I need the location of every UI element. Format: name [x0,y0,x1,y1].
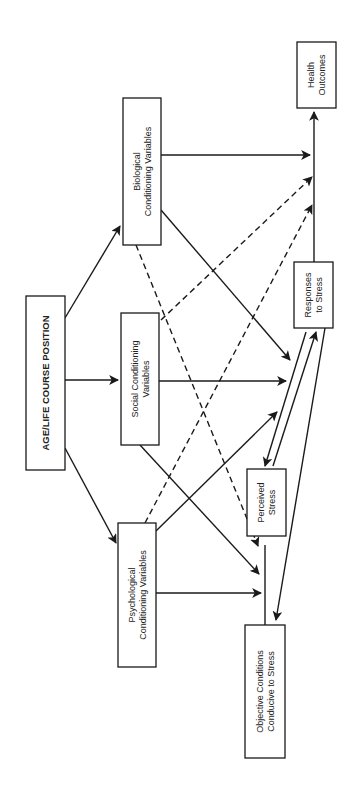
node-social: Social ConditioningVariables [121,313,159,445]
node-label: Conducive to Stress [266,651,276,732]
node-label: Biological [132,152,142,191]
stress-process-diagram: AGE/LIFE COURSE POSITIONBiologicalCondit… [0,0,351,809]
node-label: Variables [141,360,151,397]
edge-age-to-psychological-arrow [65,448,116,543]
nodes-layer: AGE/LIFE COURSE POSITIONBiologicalCondit… [26,42,336,758]
node-label: Social Conditioning [130,340,140,417]
node-age: AGE/LIFE COURSE POSITION [26,296,65,470]
node-label: Responses [303,272,313,318]
edge-social-to-objective_path-arrow [140,445,259,574]
node-label: AGE/LIFE COURSE POSITION [40,315,51,450]
node-psychological: PsychologicalConditioning Variables [118,523,156,667]
edge-responses-to-perceived-arrow [265,332,306,466]
node-label: Outcomes [317,54,327,96]
node-perceived: PerceivedStress [247,469,286,536]
edge-age-to-biological-arrow [65,226,120,318]
node-label: Objective Conditions [255,650,265,733]
node-biological: BiologicalConditioning Variables [123,98,161,245]
node-label: Conditioning Variables [138,550,148,640]
node-label: Health [306,62,316,88]
edge-psychological-to-health_path-arrow [145,205,312,523]
node-objective: Objective ConditionsConducive to Stress [245,625,285,758]
node-label: Perceived [256,482,266,522]
node-health: HealthOutcomes [297,42,336,108]
node-responses: Responsesto Stress [294,262,333,328]
node-label: Stress [267,489,277,515]
node-label: to Stress [314,277,324,313]
edges-layer [65,112,325,625]
node-label: Conditioning Variables [143,126,153,216]
edge-perceived-to-responses-arrow [273,332,316,466]
node-label: Psychological [127,567,137,622]
edge-biological-to-response_path-arrow [161,210,290,360]
